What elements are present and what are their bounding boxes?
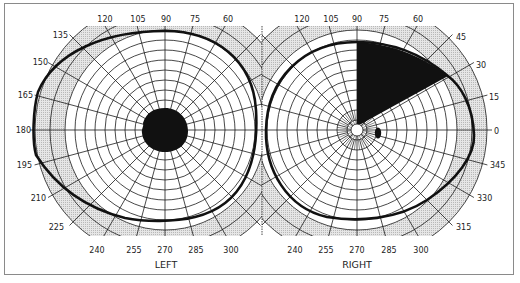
label-r120: 120 [294, 15, 309, 24]
right-fixation-point [351, 124, 363, 136]
label-r345: 345 [490, 161, 505, 170]
label-270: 270 [157, 246, 172, 255]
label-285: 285 [188, 246, 203, 255]
label-165: 165 [18, 91, 33, 100]
label-r330: 330 [477, 194, 492, 203]
right-eye-chart [222, 0, 492, 265]
label-r240: 240 [287, 246, 302, 255]
right-blind-spot [375, 128, 381, 139]
label-r0: 0 [494, 127, 499, 136]
label-r270: 270 [349, 246, 364, 255]
label-r15: 15 [489, 93, 499, 102]
label-r90: 90 [352, 15, 362, 24]
left-eye-label: LEFT [155, 259, 178, 270]
left-eye-chart [30, 0, 300, 265]
label-r60: 60 [413, 15, 423, 24]
left-central-scotoma [142, 108, 188, 152]
label-r45: 45 [456, 33, 466, 42]
label-r255: 255 [318, 246, 333, 255]
label-r315: 315 [456, 223, 471, 232]
label-60: 60 [223, 15, 233, 24]
label-210: 210 [31, 194, 46, 203]
label-135: 135 [53, 31, 68, 40]
label-300: 300 [223, 246, 238, 255]
label-75: 75 [190, 15, 200, 24]
label-150: 150 [33, 58, 48, 67]
label-105: 105 [130, 15, 145, 24]
label-r30: 30 [476, 61, 486, 70]
label-180: 180 [16, 126, 31, 135]
label-255: 255 [126, 246, 141, 255]
label-120: 120 [97, 15, 112, 24]
label-195: 195 [17, 161, 32, 170]
label-225: 225 [49, 223, 64, 232]
label-r75: 75 [379, 15, 389, 24]
label-r285: 285 [381, 246, 396, 255]
label-r300: 300 [413, 246, 428, 255]
visual-field-chart: 120 105 90 75 60 135 150 165 180 195 210… [0, 0, 520, 283]
label-240: 240 [89, 246, 104, 255]
label-r105: 105 [323, 15, 338, 24]
label-90: 90 [161, 15, 171, 24]
right-eye-label: RIGHT [342, 259, 372, 270]
